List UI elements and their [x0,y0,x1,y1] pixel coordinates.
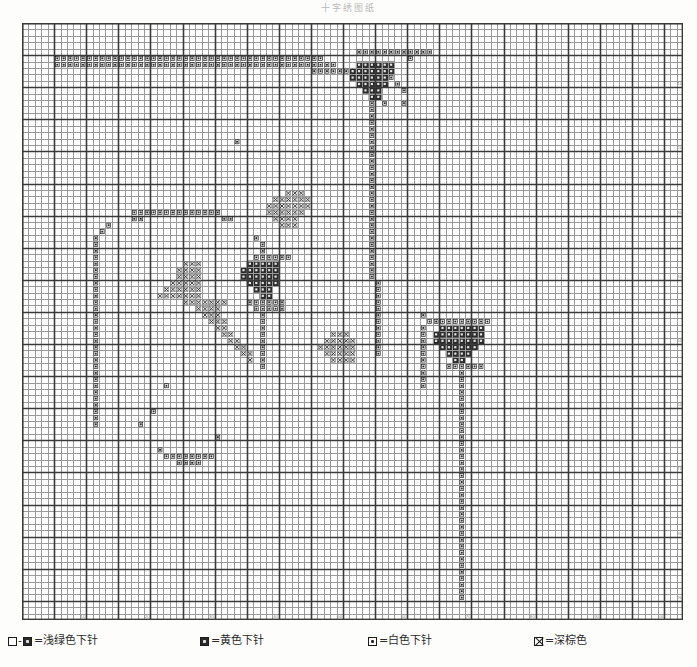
legend-swatch-yellow [200,637,209,646]
legend-item-yellow: =黄色下针 [200,630,264,652]
legend-label-light-green: =浅绿色下针 [32,634,98,647]
legend: -=浅绿色下针 =黄色下针 =白色下针 =深棕色 [0,630,697,654]
legend-label-white: =白色下针 [377,634,432,647]
page-title: 十字绣图纸 [0,0,697,16]
legend-label-yellow: =黄色下针 [209,634,264,647]
cross-stitch-chart [22,23,684,621]
legend-swatch-open-square [8,637,17,646]
legend-item-white: =白色下针 [368,630,432,652]
legend-swatch-dark-brown [534,637,543,646]
pattern-grid-canvas [22,23,683,620]
legend-item-dark-brown: =深棕色 [534,630,587,652]
legend-label-dark-brown: =深棕色 [543,634,587,647]
legend-swatch-filled-square [23,637,32,646]
legend-item-light-green: -=浅绿色下针 [8,630,98,652]
legend-swatch-white [368,637,377,646]
